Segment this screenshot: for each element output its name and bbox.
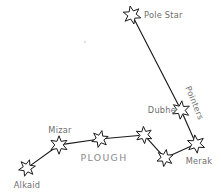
star-icon-pole-star — [123, 6, 141, 24]
star-link-merak-to-phecda — [170, 146, 191, 155]
star-link-pole-star-to-dubhe — [135, 20, 179, 105]
star-link-mizar-to-alkaid — [31, 148, 54, 165]
star-link-phecda-to-megrez — [148, 139, 162, 154]
constellation-diagram: Pole StarDubheMerakMizarAlkaid PLOUGH Po… — [0, 0, 221, 195]
star-label-dubhe: Dubhe — [148, 105, 176, 115]
background-speck — [84, 41, 86, 43]
star-label-merak: Merak — [186, 156, 212, 166]
star-icon-merak — [187, 135, 204, 153]
star-link-dubhe-to-merak — [183, 115, 193, 139]
pointers-annotation-label: Pointers — [184, 85, 207, 122]
constellation-canvas: Pole StarDubheMerakMizarAlkaid PLOUGH Po… — [0, 0, 221, 195]
star-icon-alkaid — [19, 160, 36, 176]
star-label-mizar: Mizar — [48, 125, 72, 135]
star-markers — [19, 6, 205, 176]
star-link-megrez-to-alioth — [105, 135, 138, 138]
star-icon-alioth — [92, 131, 108, 148]
plough-group-label: PLOUGH — [80, 152, 127, 163]
star-link-alioth-to-mizar — [65, 140, 95, 144]
star-label-alkaid: Alkaid — [14, 180, 40, 190]
star-label-pole-star: Pole Star — [144, 10, 183, 20]
star-icon-mizar — [51, 136, 67, 154]
